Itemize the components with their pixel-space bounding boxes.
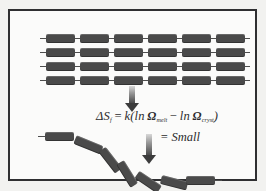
lattice-row: [40, 61, 250, 72]
chain-segment: [182, 76, 211, 85]
lattice-row: [40, 75, 250, 86]
chain-segment: [46, 34, 75, 43]
ln-melt: ln: [135, 109, 145, 123]
chain-segment: [80, 34, 109, 43]
entropy-equation: ΔSf=k(ln Ωmelt−ln Ωcryst): [96, 109, 266, 124]
chain-segment: [46, 76, 75, 85]
chain-segment: [148, 34, 177, 43]
omega-cryst-symbol: Ω: [193, 109, 202, 123]
chain-segment: [182, 62, 211, 71]
coil-segment: [45, 132, 74, 141]
chain-segment: [80, 48, 109, 57]
coil-segment: [116, 160, 138, 188]
lattice-row: [40, 33, 250, 44]
figure-frame: ΔSf=k(ln Ωmelt−ln Ωcryst) = Small: [8, 9, 257, 181]
chain-segment: [216, 76, 245, 85]
chain-segment: [114, 34, 143, 43]
chain-segment: [216, 48, 245, 57]
crystalline-lattice: [40, 33, 250, 89]
chain-segment: [46, 62, 75, 71]
chain-connector: [38, 136, 45, 137]
chain-segment: [216, 62, 245, 71]
amorphous-coil: [40, 126, 220, 188]
equals-sign: =: [112, 109, 125, 123]
minus-sign: −: [167, 109, 180, 123]
chain-segment: [182, 48, 211, 57]
omega-cryst-subscript: cryst: [202, 116, 214, 123]
chain-segment: [216, 34, 245, 43]
coil-segment: [160, 175, 188, 190]
chain-connector: [215, 180, 222, 181]
coil-segment: [186, 176, 215, 185]
chain-segment: [114, 48, 143, 57]
chain-segment: [80, 62, 109, 71]
delta-symbol: Δ: [96, 109, 104, 123]
lattice-row: [40, 47, 250, 58]
chain-segment: [182, 34, 211, 43]
arrow-shaft: [129, 86, 135, 103]
coil-segment: [134, 171, 161, 191]
polymer-entropy-figure: ΔSf=k(ln Ωmelt−ln Ωcryst) = Small: [0, 0, 266, 191]
close-paren: ): [214, 109, 218, 123]
omega-melt-subscript: melt: [156, 116, 167, 123]
chain-segment: [148, 76, 177, 85]
chain-segment: [148, 62, 177, 71]
chain-segment: [114, 76, 143, 85]
chain-segment: [80, 76, 109, 85]
chain-segment: [114, 62, 143, 71]
ln-cryst: ln: [180, 109, 190, 123]
chain-segment: [148, 48, 177, 57]
chain-segment: [46, 48, 75, 57]
